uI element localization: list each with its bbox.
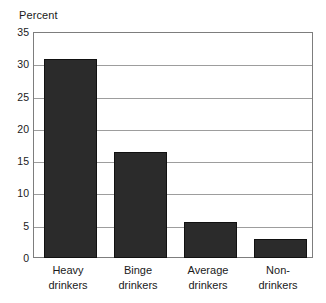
x-axis-label-line: drinkers	[243, 278, 313, 293]
x-axis-label-line: Heavy	[33, 263, 103, 278]
x-axis-category-label: Non-drinkers	[243, 263, 313, 292]
x-axis-label-line: Non-	[243, 263, 313, 278]
y-axis-tick-label: 35	[3, 26, 29, 38]
x-axis-label-line: drinkers	[173, 278, 243, 293]
bar	[184, 222, 237, 258]
y-axis-tick-label: 15	[3, 155, 29, 167]
bar	[44, 59, 97, 258]
y-axis-tick-labels: 35302520151050	[0, 32, 29, 258]
bar-chart-figure: Percent 35302520151050 HeavydrinkersBing…	[0, 0, 326, 303]
x-axis-label-line: Binge	[103, 263, 173, 278]
y-axis-tick-label: 0	[3, 252, 29, 264]
y-axis-tick-label: 10	[3, 187, 29, 199]
bars-group	[33, 32, 313, 258]
bar	[254, 239, 307, 258]
x-axis-label-line: Average	[173, 263, 243, 278]
x-axis-category-label: Bingedrinkers	[103, 263, 173, 292]
x-axis-category-label: Heavydrinkers	[33, 263, 103, 292]
y-axis-tick-label: 20	[3, 123, 29, 135]
bar	[114, 152, 167, 258]
y-axis-title: Percent	[19, 9, 58, 21]
y-axis-tick-label: 5	[3, 220, 29, 232]
y-axis-tick-label: 25	[3, 91, 29, 103]
x-axis-category-labels: HeavydrinkersBingedrinkersAveragedrinker…	[33, 263, 313, 301]
x-axis-label-line: drinkers	[33, 278, 103, 293]
y-axis-tick-label: 30	[3, 58, 29, 70]
x-axis-category-label: Averagedrinkers	[173, 263, 243, 292]
x-axis-label-line: drinkers	[103, 278, 173, 293]
